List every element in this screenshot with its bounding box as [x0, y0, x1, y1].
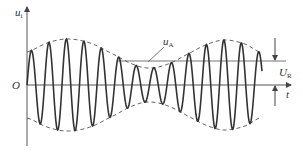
y-axis-label: ui	[15, 6, 23, 20]
envelope-label: uA	[163, 35, 174, 49]
envelope-lower	[27, 102, 262, 131]
am-waveform-diagram: ui O t uA UR	[0, 0, 303, 154]
reference-label: UR	[279, 66, 292, 80]
ua-leader-line	[148, 47, 164, 62]
origin-label: O	[12, 79, 20, 91]
t-axis-label: t	[286, 88, 290, 100]
